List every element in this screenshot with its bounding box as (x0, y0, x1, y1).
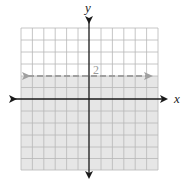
boundary-value-label: 2 (93, 63, 99, 77)
y-axis-label: y (83, 0, 91, 15)
x-axis-label: x (173, 91, 180, 106)
inequality-graph: x y 2 (0, 0, 193, 192)
